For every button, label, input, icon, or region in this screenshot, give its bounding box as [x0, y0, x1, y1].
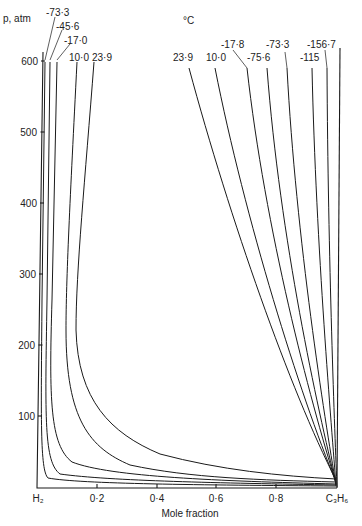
curve-left-23-9	[76, 62, 336, 479]
svg-text:600: 600	[21, 56, 38, 67]
svg-text:400: 400	[20, 198, 37, 209]
svg-text:-17·8: -17·8	[221, 39, 245, 50]
svg-text:100: 100	[18, 411, 35, 422]
svg-text:-156·7: -156·7	[307, 39, 336, 50]
curve-right-neg73-3	[287, 68, 336, 485]
x-tick-labels: H₂ 0·2 0·4 0·6 0·8 C₃H₆	[32, 493, 348, 504]
svg-text:23·9: 23·9	[92, 52, 112, 63]
y-axis-label: p, atm	[3, 13, 31, 24]
svg-text:-73·3: -73·3	[46, 7, 70, 18]
svg-text:500: 500	[20, 127, 37, 138]
svg-text:0·8: 0·8	[269, 493, 284, 504]
svg-text:0·4: 0·4	[150, 493, 165, 504]
right-curve-labels: 23·9 10·0 -17·8 -75·6 -73·3 -115 -156·7	[173, 39, 336, 63]
right-branch-curves	[189, 68, 337, 487]
svg-text:0·6: 0·6	[209, 493, 224, 504]
svg-text:0·2: 0·2	[90, 493, 105, 504]
curve-right-neg115	[312, 68, 336, 486]
unit-label: °C	[183, 15, 194, 26]
curve-right-neg156-7	[327, 68, 337, 487]
svg-text:-73·3: -73·3	[266, 39, 290, 50]
svg-text:-75·6: -75·6	[247, 52, 271, 63]
curve-left-neg17-0	[51, 62, 336, 484]
svg-text:23·9: 23·9	[173, 52, 193, 63]
svg-text:10·0: 10·0	[206, 52, 226, 63]
phase-diagram-chart: 100 200 300 400 500 600 p, atm °C H₂ 0·2…	[0, 0, 362, 526]
curve-left-neg73-3	[41, 62, 336, 486]
svg-text:10·0: 10·0	[69, 52, 89, 63]
x-axis-label: Mole fraction	[161, 508, 218, 519]
left-branch-curves	[41, 62, 336, 486]
svg-text:-115: -115	[300, 52, 320, 63]
svg-text:-45·6: -45·6	[56, 21, 80, 32]
svg-text:300: 300	[19, 269, 36, 280]
right-axis	[337, 48, 340, 488]
svg-text:200: 200	[18, 340, 35, 351]
svg-text:H₂: H₂	[32, 493, 43, 504]
y-tick-labels: 100 200 300 400 500 600	[18, 56, 38, 422]
svg-text:-17·0: -17·0	[64, 35, 88, 46]
left-curve-labels: -73·3 -45·6 -17·0 10·0 23·9	[46, 7, 112, 63]
svg-text:C₃H₆: C₃H₆	[326, 493, 349, 504]
